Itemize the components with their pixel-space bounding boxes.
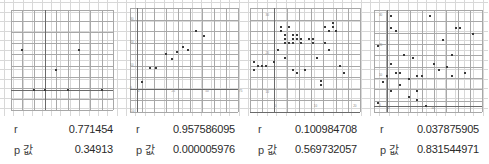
scatter-panel-1: r 0.771454 p 값 0.34913 — [0, 0, 122, 164]
scatter-point — [324, 42, 326, 44]
y-tick-label: -10 — [130, 110, 134, 113]
scatter-point — [300, 42, 302, 44]
scatter-point — [176, 51, 178, 53]
chart-gridline-horizontal — [250, 8, 360, 9]
scatter-point — [459, 27, 461, 29]
scatter-point — [464, 72, 466, 74]
chart-gridline-horizontal — [130, 20, 238, 21]
scatter-point — [182, 46, 184, 48]
chart-gridline-vertical — [154, 8, 155, 112]
scatter-point — [284, 34, 286, 36]
scatter-point — [304, 69, 306, 71]
y-tick-label: 0 — [379, 104, 381, 107]
scatter-point — [261, 65, 263, 67]
chart-gridline-horizontal — [130, 77, 238, 78]
scatter-point — [377, 45, 379, 47]
p-value-1: 0.34913 — [42, 143, 122, 155]
scatter-point — [195, 30, 197, 32]
scatter-point — [438, 69, 440, 71]
stat-row-p-3: p 값 0.569732057 — [244, 139, 366, 159]
scatter-point — [284, 38, 286, 40]
scatter-point — [288, 42, 290, 44]
chart-gridline-horizontal — [374, 10, 482, 11]
scatter-point — [253, 61, 255, 63]
scatter-point — [288, 26, 290, 28]
chart-area-3: 01020102030 — [244, 0, 366, 116]
scatter-point — [425, 105, 427, 107]
stat-row-r-1: r 0.771454 — [0, 119, 122, 139]
chart-gridline-horizontal — [130, 66, 238, 67]
chart-gridline-horizontal — [374, 67, 482, 68]
scatter-point — [382, 81, 384, 83]
y-tick-label: 10 — [130, 64, 133, 67]
scatter-point — [21, 49, 23, 51]
scatter-point — [390, 90, 392, 92]
r-label-2: r — [122, 123, 164, 135]
chart-gridline-vertical — [446, 10, 447, 112]
chart-gridline-vertical — [214, 8, 215, 112]
chart-gridline-vertical — [68, 10, 69, 110]
chart-gridline-vertical — [56, 10, 57, 110]
chart-gridline-horizontal — [250, 31, 360, 32]
scatter-point — [320, 84, 322, 86]
scatter-point — [442, 39, 444, 41]
chart-gridline-vertical — [336, 8, 337, 112]
y-tick-label: 30 — [379, 14, 382, 17]
chart-gridline-horizontal — [374, 112, 482, 113]
chart-gridline-horizontal — [11, 77, 113, 78]
cell-gridline-horizontal — [366, 2, 488, 3]
y-tick-label: 30 — [266, 14, 269, 17]
chart-gridline-horizontal — [11, 32, 113, 33]
scatter-point — [187, 49, 189, 51]
scatter-point — [408, 96, 410, 98]
y-tick-label: 30 — [130, 18, 133, 21]
scatter-point — [292, 34, 294, 36]
x-axis-line — [250, 112, 360, 113]
chart-gridline-vertical — [226, 8, 227, 112]
scatter-panel-4: 0100102030 r 0.037875905 p 값 0.831544971 — [366, 0, 488, 164]
y-tick-label: 20 — [266, 52, 269, 55]
scatter-point — [265, 65, 267, 67]
plot-frame-3: 01020102030 — [250, 8, 360, 112]
p-value-2: 0.000005976 — [164, 143, 244, 155]
scatter-point — [390, 27, 392, 29]
scatter-point — [165, 53, 167, 55]
stat-row-p-2: p 값 0.000005976 — [122, 139, 244, 159]
y-tick-label: 0 — [130, 87, 132, 90]
chart-area-1 — [0, 0, 122, 116]
x-tick-label: 50 — [205, 90, 208, 93]
y-tick-label: 20 — [130, 41, 133, 44]
scatter-point — [44, 89, 46, 91]
x-tick-label: 10 — [431, 107, 434, 110]
x-tick-label: 25 — [172, 90, 175, 93]
chart-gridline-horizontal — [11, 43, 113, 44]
scatter-point — [300, 38, 302, 40]
scatter-point — [416, 90, 418, 92]
stats-block-4: r 0.037875905 p 값 0.831544971 — [366, 116, 488, 164]
scatter-point — [386, 75, 388, 77]
scatter-point — [399, 84, 401, 86]
chart-gridline-horizontal — [11, 21, 113, 22]
scatter-point — [339, 65, 341, 67]
scatter-point — [292, 42, 294, 44]
scatter-point — [171, 58, 173, 60]
stats-block-3: r 0.100984708 p 값 0.569732057 — [244, 116, 366, 164]
x-tick-label: 10 — [314, 105, 317, 108]
plot-frame-1 — [11, 10, 113, 110]
p-label-1: p 값 — [0, 141, 42, 157]
r-label-3: r — [244, 123, 286, 135]
scatter-point — [257, 65, 259, 67]
scatter-point — [455, 27, 457, 29]
chart-gridline-horizontal — [11, 66, 113, 67]
chart-gridline-horizontal — [11, 110, 113, 111]
chart-gridline-horizontal — [130, 43, 238, 44]
chart-gridline-vertical — [202, 8, 203, 112]
scatter-point — [280, 26, 282, 28]
chart-gridline-horizontal — [250, 20, 360, 21]
x-tick-label: 0 — [275, 105, 277, 108]
scatter-point — [343, 72, 345, 74]
scatter-point — [149, 67, 151, 69]
scatter-point — [292, 38, 294, 40]
chart-gridline-vertical — [34, 10, 35, 110]
scatter-point — [316, 57, 318, 59]
